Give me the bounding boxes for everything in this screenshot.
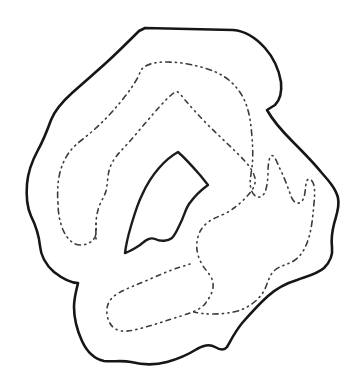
dashed-contour-inner-curve	[96, 92, 255, 332]
figure-canvas	[0, 0, 354, 390]
contour-diagram	[0, 0, 354, 390]
inner-island-curve	[125, 152, 208, 253]
outer-boundary-curve	[27, 28, 339, 364]
dashed-contour-outer-curve	[58, 62, 315, 314]
